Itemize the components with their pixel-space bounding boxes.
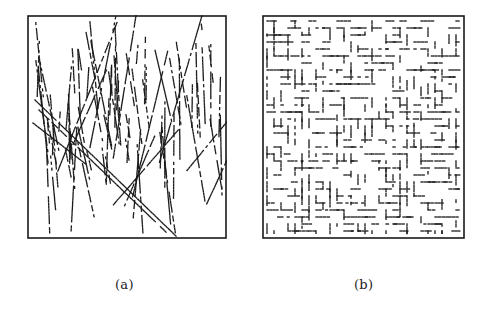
line-map-image-a	[27, 15, 227, 239]
caption-a: (a)	[115, 277, 134, 293]
figure-panel-a	[27, 15, 227, 239]
figure-panel-b	[262, 15, 465, 239]
panel-border	[28, 16, 226, 238]
caption-b: (b)	[354, 277, 373, 293]
maze-map-image-b	[262, 15, 465, 239]
